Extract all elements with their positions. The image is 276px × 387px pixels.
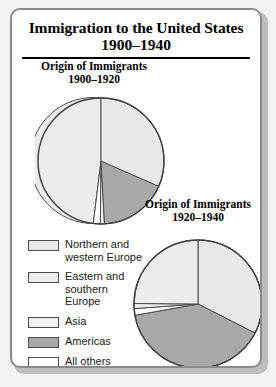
legend-label-northern-western-europe: Northern and western Europe <box>65 238 142 263</box>
title-line-1: Immigration to the United States <box>12 19 260 36</box>
immigration-figure-card: Immigration to the United States 1900–19… <box>10 8 262 368</box>
pie-1-slice-eastern-southern-europe <box>35 98 101 224</box>
legend-swatch-americas <box>28 337 59 348</box>
pie-1-heading-subtitle: 1900–1920 <box>24 73 164 86</box>
legend: Northern and western Europe Eastern and … <box>28 238 154 368</box>
pie-2-heading: Origin of Immigrants 1920–1940 <box>130 198 262 224</box>
pie-1-heading-title: Origin of Immigrants <box>24 60 164 73</box>
legend-swatch-northern-western-europe <box>28 240 59 251</box>
page-title: Immigration to the United States 1900–19… <box>12 19 260 53</box>
legend-item-northern-western-europe: Northern and western Europe <box>28 238 154 263</box>
legend-item-asia: Asia <box>28 315 154 328</box>
legend-label-all-others: All others <box>65 355 111 368</box>
pie-1-heading: Origin of Immigrants 1900–1920 <box>24 60 164 86</box>
legend-swatch-eastern-southern-europe <box>28 272 59 283</box>
figure-root: Immigration to the United States 1900–19… <box>0 0 276 387</box>
pie-2-heading-subtitle: 1920–1940 <box>130 211 262 224</box>
legend-label-eastern-southern-europe: Eastern and southern Europe <box>65 270 124 308</box>
legend-swatch-all-others <box>28 357 59 368</box>
legend-label-asia: Asia <box>65 315 86 328</box>
title-line-2: 1900–1940 <box>12 36 260 53</box>
legend-swatch-asia <box>28 317 59 328</box>
title-divider <box>22 57 250 59</box>
legend-item-americas: Americas <box>28 335 154 348</box>
legend-item-eastern-southern-europe: Eastern and southern Europe <box>28 270 154 308</box>
legend-item-all-others: All others <box>28 355 154 368</box>
legend-label-americas: Americas <box>65 335 111 348</box>
pie-2-heading-title: Origin of Immigrants <box>130 198 262 211</box>
